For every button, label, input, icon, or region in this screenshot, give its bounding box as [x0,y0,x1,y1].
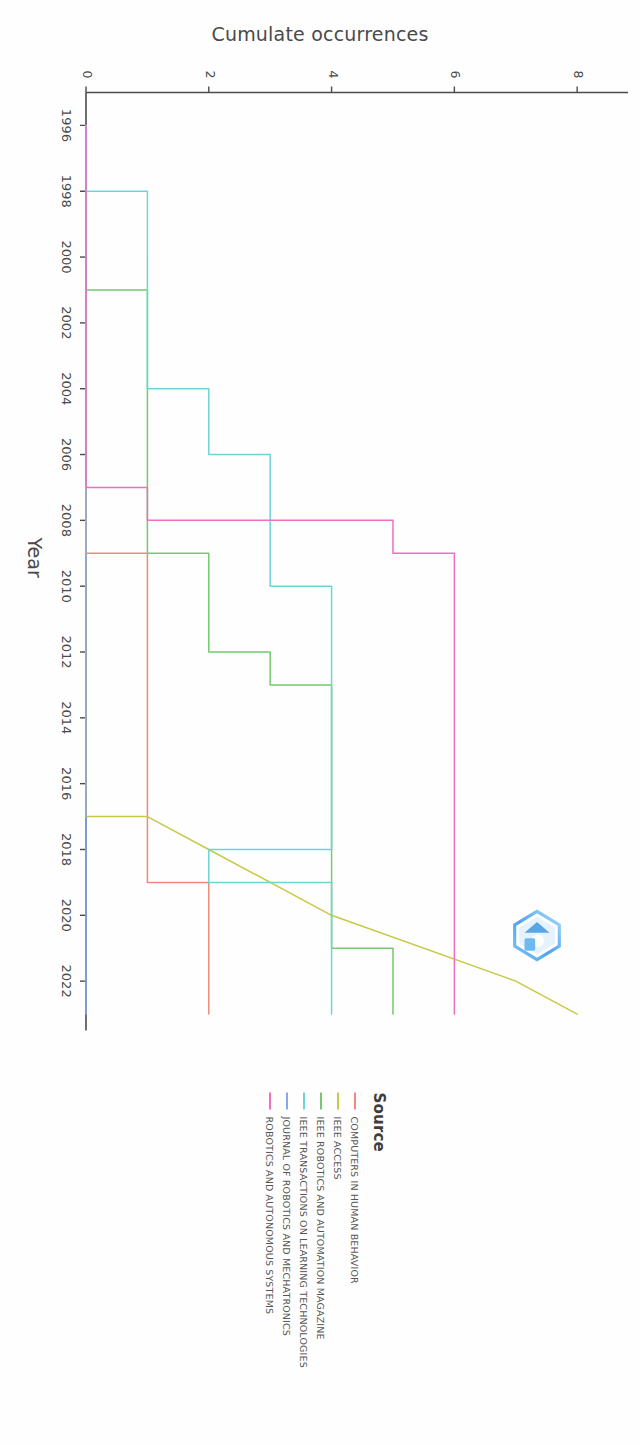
legend: Source COMPUTERS IN HUMAN BEHAVIORIEEE A… [259,1092,388,1367]
legend-item[interactable]: IEEE ROBOTICS AND AUTOMATION MAGAZINE [315,1092,327,1367]
hexagon-logo-watermark [512,908,562,962]
y-tick-label: 8 [571,50,586,78]
x-tick-label: 2014 [59,692,74,742]
x-tick-label: 2000 [59,232,74,282]
y-tick-label: 4 [326,50,341,78]
legend-swatch-icon [303,1092,305,1109]
x-tick-label: 2018 [59,824,74,874]
legend-items: COMPUTERS IN HUMAN BEHAVIORIEEE ACCESSIE… [264,1092,361,1367]
legend-item[interactable]: IEEE ACCESS [332,1092,344,1367]
x-tick-label: 2012 [59,627,74,677]
rotated-chart-stage: Cumulate occurrences Year 02468199619982… [0,0,640,1445]
legend-item[interactable]: IEEE TRANSACTIONS ON LEARNING TECHNOLOGI… [298,1092,310,1367]
legend-swatch-icon [286,1092,288,1109]
x-tick-label: 2004 [59,363,74,413]
legend-item-label: COMPUTERS IN HUMAN BEHAVIOR [350,1116,361,1283]
legend-title: Source [370,1092,388,1367]
x-tick-label: 2008 [59,495,74,545]
x-tick-label: 2006 [59,429,74,479]
legend-item-label: JOURNAL OF ROBOTICS AND MECHATRONICS [282,1116,293,1335]
legend-item-label: IEEE ACCESS [333,1116,344,1179]
x-tick-label: 2020 [59,890,74,940]
x-tick-label: 1996 [59,100,74,150]
legend-swatch-icon [269,1092,271,1109]
x-tick-label: 2022 [59,956,74,1006]
legend-swatch-icon [354,1092,356,1109]
legend-item-label: ROBOTICS AND AUTONOMOUS SYSTEMS [265,1116,276,1314]
y-tick-label: 6 [448,50,463,78]
legend-item[interactable]: ROBOTICS AND AUTONOMOUS SYSTEMS [264,1092,276,1367]
x-tick-label: 1998 [59,166,74,216]
series-line-2 [86,125,393,1014]
y-tick-label: 2 [203,50,218,78]
legend-item-label: IEEE ROBOTICS AND AUTOMATION MAGAZINE [316,1116,327,1339]
legend-item[interactable]: COMPUTERS IN HUMAN BEHAVIOR [349,1092,361,1367]
legend-item[interactable]: JOURNAL OF ROBOTICS AND MECHATRONICS [281,1092,293,1367]
x-tick-label: 2002 [59,297,74,347]
legend-swatch-icon [337,1092,339,1109]
chart-figure: Cumulate occurrences Year 02468199619982… [0,0,640,1445]
x-tick-label: 2016 [59,758,74,808]
y-tick-label: 0 [80,50,95,78]
legend-item-label: IEEE TRANSACTIONS ON LEARNING TECHNOLOGI… [299,1116,310,1367]
legend-swatch-icon [320,1092,322,1109]
x-tick-label: 2010 [59,561,74,611]
